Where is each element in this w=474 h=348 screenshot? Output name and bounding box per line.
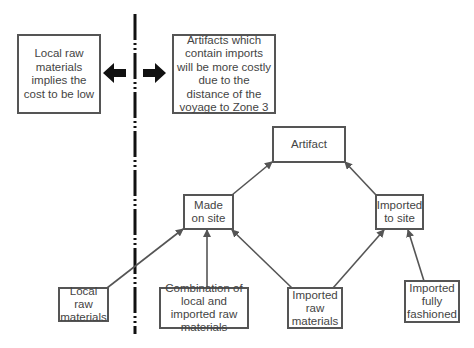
edge-made-to-artifact — [232, 162, 272, 195]
node-artifact: Artifact — [272, 126, 346, 163]
node-artifact-label: Artifact — [291, 138, 327, 151]
left-bold-arrow-icon — [103, 63, 126, 83]
node-local-raw-materials: Local raw materials — [58, 287, 109, 322]
node-imported-fully-fashioned: Imported fully fashioned — [404, 280, 460, 323]
node-local-raw-materials-label: Local raw materials — [60, 285, 107, 324]
node-combination-raw-materials: Combination of local and imported raw ma… — [159, 287, 249, 329]
annotation-local-cost-box: Local raw materials implies the cost to … — [17, 34, 101, 114]
annotation-imports-cost-box: Artifacts which contain imports will be … — [172, 34, 276, 114]
edge-fully-to-importedsite — [408, 230, 424, 281]
node-imported-fully-fashioned-label: Imported fully fashioned — [407, 282, 457, 321]
edge-imported-to-artifact — [345, 162, 376, 195]
edge-importedraw-to-importedsite — [333, 230, 384, 288]
node-combination-raw-materials-label: Combination of local and imported raw ma… — [162, 282, 246, 334]
edge-importedraw-to-made — [232, 230, 292, 288]
right-bold-arrow-icon — [143, 63, 166, 83]
node-imported-to-site-label: Imported to site — [377, 199, 422, 225]
node-made-on-site: Made on site — [183, 194, 234, 230]
edge-localraw-to-made — [107, 229, 183, 288]
node-made-on-site-label: Made on site — [191, 199, 226, 225]
annotation-imports-cost-text: Artifacts which contain imports will be … — [176, 34, 272, 115]
node-imported-raw-materials: Imported raw materials — [287, 287, 343, 329]
node-imported-raw-materials-label: Imported raw materials — [292, 289, 339, 328]
node-imported-to-site: Imported to site — [375, 194, 424, 230]
annotation-local-cost-text: Local raw materials implies the cost to … — [21, 47, 97, 101]
diagram-canvas: Local raw materials implies the cost to … — [0, 0, 474, 348]
